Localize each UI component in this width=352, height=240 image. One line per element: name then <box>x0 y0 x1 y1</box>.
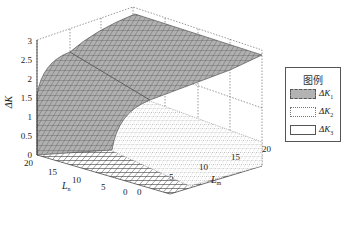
svg-text:10: 10 <box>199 162 209 172</box>
svg-text:2: 2 <box>28 74 33 84</box>
svg-text:0: 0 <box>137 187 142 196</box>
svg-text:15: 15 <box>231 152 241 162</box>
svg-text:10: 10 <box>72 175 82 185</box>
svg-text:3: 3 <box>28 36 33 46</box>
svg-text:5: 5 <box>169 172 174 182</box>
svg-text:1.5: 1.5 <box>21 93 33 103</box>
svg-text:20: 20 <box>24 158 34 168</box>
y-axis-label: Ln <box>61 180 71 192</box>
gray-mesh-swatch-icon <box>290 89 316 99</box>
svg-text:0.5: 0.5 <box>21 131 33 141</box>
solid-mesh-swatch-icon <box>290 125 316 135</box>
svg-text:1: 1 <box>28 112 33 122</box>
z-axis-ticks: 3 2.5 2 1.5 1 0.5 0 <box>21 36 33 160</box>
legend-item-dk2: ΔK2 <box>290 106 340 118</box>
dotted-mesh-swatch-icon <box>290 107 316 117</box>
legend-item-dk3: ΔK3 <box>290 124 340 136</box>
svg-text:2.5: 2.5 <box>21 55 33 65</box>
svg-text:20: 20 <box>262 144 272 154</box>
svg-text:0: 0 <box>123 187 128 196</box>
legend: 图例 ΔK1 ΔK2 ΔK3 <box>285 67 341 142</box>
legend-item-dk1: ΔK1 <box>290 88 340 100</box>
svg-text:5: 5 <box>101 182 106 192</box>
z-axis-label: ΔK <box>3 94 14 109</box>
svg-text:15: 15 <box>48 167 58 177</box>
legend-title: 图例 <box>286 72 340 87</box>
